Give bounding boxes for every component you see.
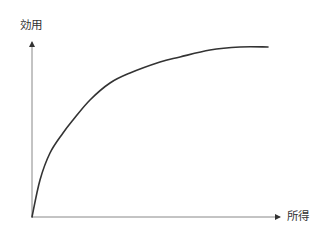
x-axis-label: 所得 — [287, 211, 309, 223]
y-axis-label: 効用 — [20, 20, 42, 32]
utility-chart — [0, 0, 327, 237]
utility-curve — [32, 47, 268, 217]
